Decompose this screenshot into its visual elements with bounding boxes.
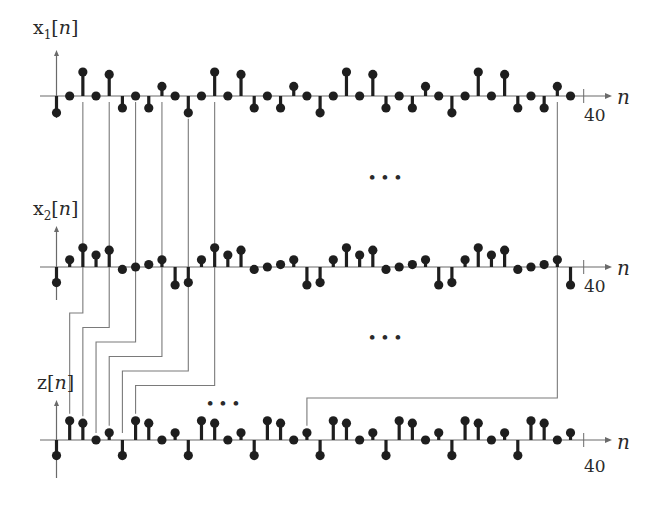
stem-marker-x1-37 xyxy=(540,103,549,112)
interleaving-diagram: x1[n] x2[n] z[n] n n n 40 40 40 • • • • … xyxy=(0,0,662,509)
stem-marker-z-16 xyxy=(263,416,272,425)
stem-marker-z-5 xyxy=(118,451,127,460)
stem-marker-z-29 xyxy=(434,428,443,437)
stem-marker-x1-16 xyxy=(263,91,272,100)
stem-marker-x1-39 xyxy=(566,91,575,100)
stem-marker-z-21 xyxy=(329,416,338,425)
axis-label-n-x2: n xyxy=(617,256,630,280)
stem-marker-z-10 xyxy=(184,451,193,460)
stem-marker-x2-38 xyxy=(553,255,562,264)
route-line-38-to-19 xyxy=(307,102,557,426)
stem-marker-z-39 xyxy=(566,428,575,437)
stem-marker-x1-4 xyxy=(105,70,114,79)
stem-marker-x2-3 xyxy=(91,250,100,259)
ellipsis-z: • • • xyxy=(206,396,240,411)
stem-marker-x2-20 xyxy=(316,278,325,287)
stem-marker-z-0 xyxy=(52,451,61,460)
stem-plot-x1 xyxy=(40,50,612,118)
stem-marker-x2-1 xyxy=(65,255,74,264)
stem-marker-x1-17 xyxy=(276,103,285,112)
stem-marker-x2-33 xyxy=(487,250,496,259)
stem-marker-z-2 xyxy=(78,419,87,428)
stem-plot-z xyxy=(40,400,612,478)
stem-marker-z-6 xyxy=(131,416,140,425)
stem-marker-x1-0 xyxy=(52,108,61,117)
stem-marker-z-20 xyxy=(316,451,325,460)
signal-label-x2: x2[n] xyxy=(33,197,78,223)
stem-marker-x1-36 xyxy=(526,91,535,100)
stem-marker-z-38 xyxy=(553,435,562,444)
stem-marker-z-32 xyxy=(474,419,483,428)
stem-plot-x2 xyxy=(40,226,612,300)
stem-marker-z-11 xyxy=(197,416,206,425)
stem-marker-x2-27 xyxy=(408,260,417,269)
axis-arrow-n-z xyxy=(605,437,612,443)
ellipsis-x1-x2: • • • xyxy=(368,170,402,185)
axis-arrow-n-x1 xyxy=(605,93,612,99)
stem-marker-x1-24 xyxy=(368,70,377,79)
stem-marker-x1-18 xyxy=(289,82,298,91)
axis-label-n-x1: n xyxy=(617,85,630,109)
stem-marker-z-31 xyxy=(460,416,469,425)
stem-marker-z-36 xyxy=(526,416,535,425)
stem-marker-x2-19 xyxy=(302,280,311,289)
stem-marker-z-18 xyxy=(289,435,298,444)
stem-marker-x1-33 xyxy=(487,91,496,100)
tick-label-40-x2: 40 xyxy=(584,276,606,296)
stem-marker-x1-12 xyxy=(210,67,219,76)
stem-marker-x1-32 xyxy=(474,67,483,76)
stem-marker-z-4 xyxy=(105,428,114,437)
stem-marker-x2-10 xyxy=(184,278,193,287)
stem-marker-x2-24 xyxy=(368,246,377,255)
stem-marker-x1-5 xyxy=(118,103,127,112)
stem-marker-x1-34 xyxy=(500,70,509,79)
stem-marker-x1-28 xyxy=(421,82,430,91)
stem-marker-x2-11 xyxy=(197,255,206,264)
stem-marker-x2-16 xyxy=(263,262,272,271)
stem-marker-z-27 xyxy=(408,419,417,428)
stem-marker-z-1 xyxy=(65,416,74,425)
stem-marker-x1-6 xyxy=(131,91,140,100)
stem-marker-z-30 xyxy=(447,451,456,460)
stem-marker-z-3 xyxy=(91,435,100,444)
stem-marker-x1-13 xyxy=(223,91,232,100)
stem-marker-z-26 xyxy=(395,416,404,425)
stem-marker-x2-8 xyxy=(157,255,166,264)
stem-marker-x1-23 xyxy=(355,91,364,100)
stem-marker-x1-20 xyxy=(316,108,325,117)
stem-marker-x2-30 xyxy=(447,278,456,287)
stem-marker-x1-35 xyxy=(513,103,522,112)
tick-label-40-x1: 40 xyxy=(584,105,606,125)
stem-marker-x1-14 xyxy=(236,70,245,79)
stem-marker-x1-25 xyxy=(381,103,390,112)
stem-marker-z-25 xyxy=(381,451,390,460)
stem-marker-x2-9 xyxy=(171,280,180,289)
stem-marker-x2-13 xyxy=(223,250,232,259)
stem-marker-x2-7 xyxy=(144,260,153,269)
stem-marker-x2-22 xyxy=(342,243,351,252)
stem-marker-x1-1 xyxy=(65,91,74,100)
axis-arrow-amplitude-z xyxy=(54,400,59,406)
stem-marker-x1-2 xyxy=(78,67,87,76)
stem-marker-z-7 xyxy=(144,419,153,428)
stem-marker-z-17 xyxy=(276,419,285,428)
stem-marker-x2-5 xyxy=(118,265,127,274)
stem-marker-x2-15 xyxy=(250,265,259,274)
stem-marker-x2-21 xyxy=(329,255,338,264)
stem-marker-z-9 xyxy=(171,428,180,437)
stem-marker-x1-3 xyxy=(91,91,100,100)
stem-marker-x1-19 xyxy=(302,91,311,100)
stem-marker-z-15 xyxy=(250,451,259,460)
stem-marker-x2-31 xyxy=(460,255,469,264)
axis-arrow-amplitude-x1 xyxy=(54,50,59,56)
signal-label-z: z[n] xyxy=(37,371,74,393)
stem-marker-x1-7 xyxy=(144,103,153,112)
stem-marker-x2-39 xyxy=(566,280,575,289)
stem-marker-z-37 xyxy=(540,419,549,428)
axis-label-n-z: n xyxy=(617,430,630,454)
stem-marker-x1-27 xyxy=(408,103,417,112)
stem-marker-x1-21 xyxy=(329,91,338,100)
stem-marker-z-24 xyxy=(368,428,377,437)
stem-marker-x2-34 xyxy=(500,246,509,255)
signal-plots xyxy=(40,50,612,478)
